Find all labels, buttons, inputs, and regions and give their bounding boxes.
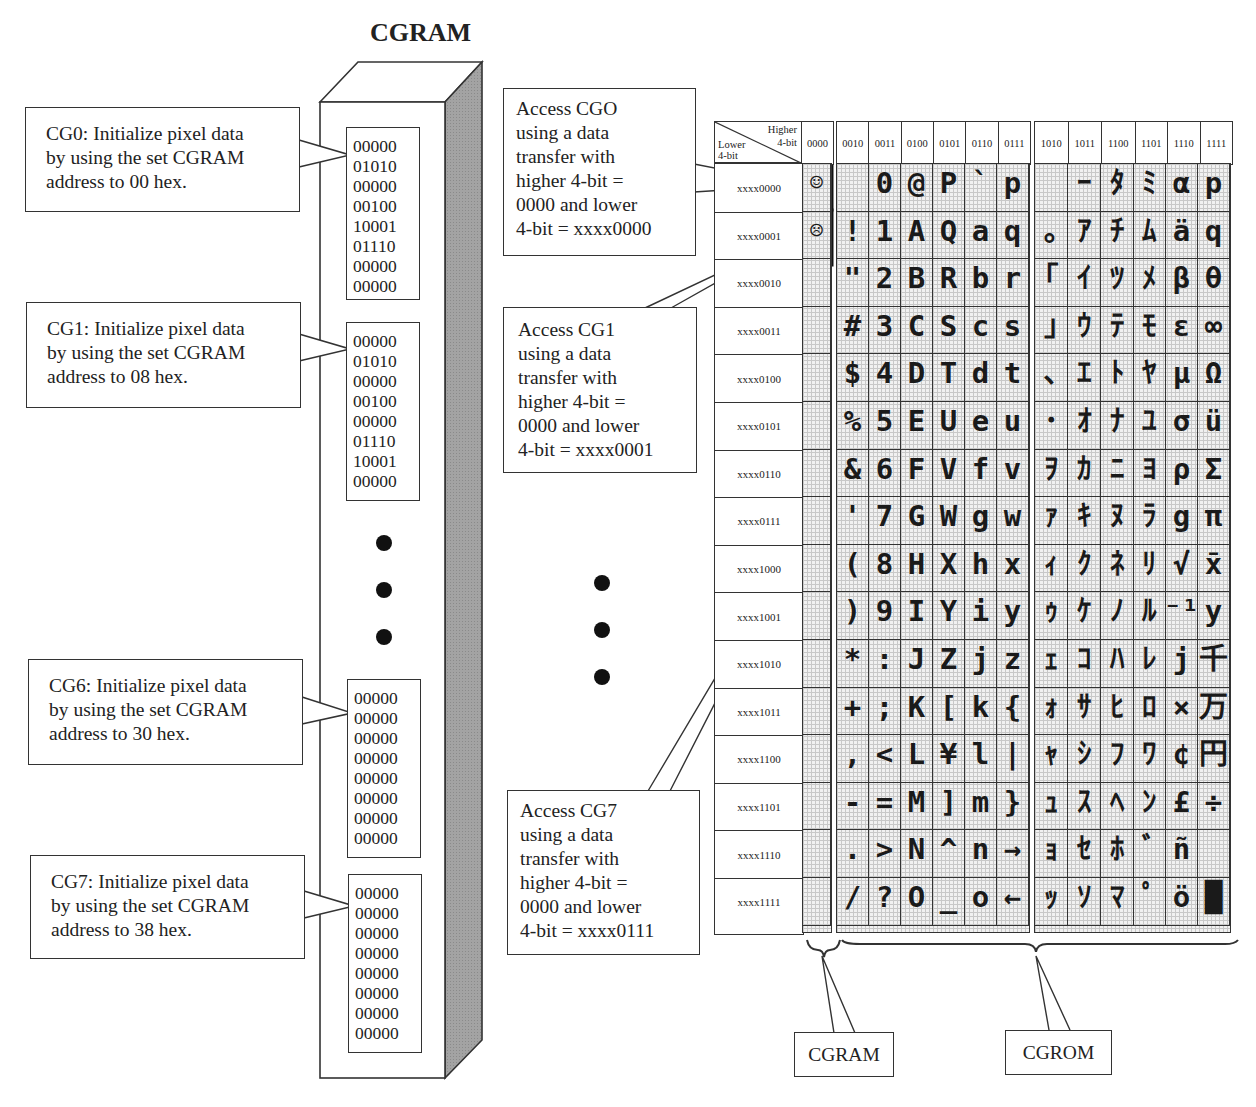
character-cell: x: [997, 545, 1029, 593]
character-cell: &: [837, 450, 869, 498]
character-cell: =: [869, 783, 901, 831]
cg1-init-callout: CG1: Initialize pixel data by using the …: [26, 302, 301, 408]
row-header: xxxx0101: [715, 402, 803, 450]
col-header: 0110: [965, 122, 997, 164]
callout-line: higher 4-bit =: [520, 871, 689, 895]
col-header: 0011: [868, 122, 900, 164]
character-cell: θ: [1198, 259, 1230, 307]
access-cg7-callout: Access CG7 using a data transfer with hi…: [507, 790, 700, 955]
character-cell: ﾐ: [1134, 164, 1166, 212]
character-cell: G: [901, 497, 933, 545]
character-cell: ]: [933, 783, 965, 831]
character-cell: +: [837, 688, 869, 736]
character-cell: 万: [1198, 688, 1230, 736]
row-header: xxxx1100: [715, 735, 803, 783]
callout-line: address to 08 hex.: [47, 365, 282, 389]
character-cell: ∞: [1198, 307, 1230, 355]
col-header: 1011: [1068, 122, 1102, 164]
bit-row: 10001: [353, 216, 419, 236]
character-cell: ﾊ: [1101, 640, 1134, 688]
character-cell: ü: [1198, 402, 1230, 450]
character-cell: [803, 450, 831, 498]
character-cell: ｻ: [1068, 688, 1101, 736]
character-cell: ñ: [1166, 830, 1198, 878]
character-cell: [803, 354, 831, 402]
character-cell: `: [965, 164, 997, 212]
row-header: xxxx1110: [715, 830, 803, 878]
callout-line: Access CGO: [516, 97, 685, 121]
character-cell: ×: [1166, 688, 1198, 736]
character-cell: z: [997, 640, 1029, 688]
bit-row: 00000: [355, 1003, 421, 1023]
character-cell: O: [901, 878, 933, 926]
character-cell: %: [837, 402, 869, 450]
character-cell: (: [837, 545, 869, 593]
character-cell: 8: [869, 545, 901, 593]
ellipsis-dot: [594, 669, 610, 685]
bit-row: 00000: [355, 883, 421, 903]
character-cell: [803, 307, 831, 355]
character-cell: ﾌ: [1101, 735, 1134, 783]
col-header: 0111: [998, 122, 1030, 164]
character-cell: >: [869, 830, 901, 878]
character-cell: ﾎ: [1101, 830, 1134, 878]
character-cell: σ: [1166, 402, 1198, 450]
row-header: xxxx0111: [715, 497, 803, 545]
bit-row: 00000: [355, 963, 421, 983]
character-cell: ﾝ: [1134, 783, 1166, 831]
character-cell: h: [965, 545, 997, 593]
character-cell: p: [1198, 164, 1230, 212]
bit-row: 01110: [353, 236, 419, 256]
ellipsis-dot: [594, 622, 610, 638]
callout-line: Access CG7: [520, 799, 689, 823]
corner-higher-label: Higher: [768, 124, 797, 135]
col-header: 0100: [901, 122, 933, 164]
bit-row: 00000: [355, 923, 421, 943]
character-cell: ←: [997, 878, 1029, 926]
bit-row: 00000: [354, 808, 420, 828]
character-cell: 4: [869, 354, 901, 402]
character-cell: .: [837, 830, 869, 878]
character-cell: ｸ: [1068, 545, 1101, 593]
bit-row: 00000: [355, 983, 421, 1003]
row-header: xxxx0000: [715, 164, 803, 212]
character-cell: [803, 545, 831, 593]
character-cell: ﾈ: [1101, 545, 1134, 593]
callout-line: address to 00 hex.: [46, 170, 281, 194]
character-cell: q: [997, 212, 1029, 260]
bit-row: 10001: [353, 451, 419, 471]
callout-line: CG7: Initialize pixel data: [51, 870, 286, 894]
callout-line: address to 30 hex.: [49, 722, 284, 746]
character-cell: <: [869, 735, 901, 783]
character-cell: [803, 259, 831, 307]
callout-line: by using the set CGRAM: [47, 341, 282, 365]
character-cell: ﾒ: [1134, 259, 1166, 307]
character-cell: ﾂ: [1101, 259, 1134, 307]
cg6-bit-block: 00000 00000 00000 00000 00000 00000 0000…: [347, 679, 421, 858]
character-cell: ﾏ: [1101, 878, 1134, 926]
character-cell: β: [1166, 259, 1198, 307]
character-cell: ﾔ: [1134, 354, 1166, 402]
callout-line: transfer with: [520, 847, 689, 871]
character-cell: 円: [1198, 735, 1230, 783]
character-cell: u: [997, 402, 1029, 450]
character-cell: ﾛ: [1134, 688, 1166, 736]
character-cell: ?: [869, 878, 901, 926]
character-cell: ｽ: [1068, 783, 1101, 831]
character-cell: ö: [1166, 878, 1198, 926]
col-header: 0010: [837, 122, 868, 164]
character-cell: ¥: [933, 735, 965, 783]
corner-higher-label: 4-bit: [777, 137, 797, 148]
bit-row: 00000: [355, 1023, 421, 1043]
cg1-bit-block: 00000 01010 00000 00100 00000 01110 1000…: [346, 322, 420, 501]
col-header: 0000: [802, 122, 833, 164]
character-cell: ｯ: [1035, 878, 1068, 926]
character-cell: j: [965, 640, 997, 688]
character-cell: m: [965, 783, 997, 831]
character-cell: ^: [933, 830, 965, 878]
table-corner-header: Higher 4-bit Lower 4-bit: [714, 121, 802, 163]
col-header: 1100: [1101, 122, 1135, 164]
character-cell: [803, 497, 831, 545]
ellipsis-dot: [376, 629, 392, 645]
cg7-bit-block: 00000 00000 00000 00000 00000 00000 0000…: [348, 874, 422, 1053]
